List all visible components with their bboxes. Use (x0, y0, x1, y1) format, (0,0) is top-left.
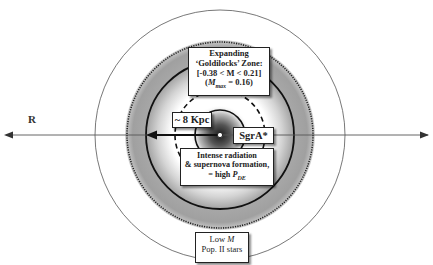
intense-radiation-label: Intense radiation & supernova formation,… (180, 148, 274, 186)
low-m-pop2-label: Low M Pop. II stars (195, 232, 249, 263)
intense-line3: = high PDE (181, 170, 273, 182)
intense-line1: Intense radiation (181, 151, 273, 160)
galactic-habitable-zone-diagram (0, 0, 433, 265)
goldilocks-line4: (Mmax = 0.16) (189, 78, 269, 90)
max-subscript: max (215, 83, 226, 89)
high-prefix: = high (208, 170, 232, 179)
right-arrowhead-icon (420, 132, 429, 139)
r-axis-label: R (28, 113, 36, 125)
max-value: = 0.16) (226, 77, 253, 87)
lowm-line2: Pop. II stars (196, 245, 248, 255)
low-prefix: Low (210, 234, 228, 244)
distance-label: ~ 8 Kpc (172, 112, 212, 128)
sgra-label: SgrA* (233, 127, 274, 144)
goldilocks-zone-label: Expanding ‘Goldilocks’ Zone: [-0.38 < M … (188, 47, 270, 96)
de-subscript: DE (237, 174, 245, 180)
intense-line2: & supernova formation, (181, 160, 273, 169)
left-arrowhead-icon (4, 132, 13, 139)
sgra-center-point (217, 132, 222, 137)
m-variable: M (227, 234, 234, 244)
